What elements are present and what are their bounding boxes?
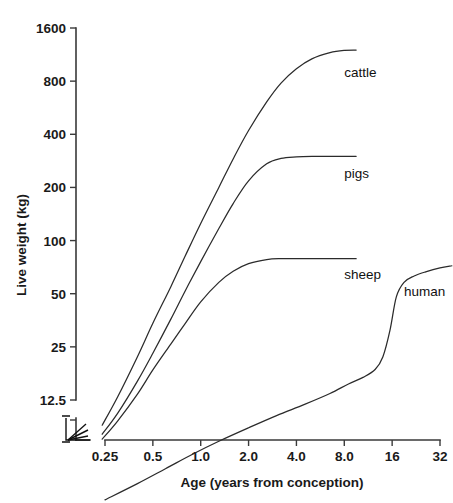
series-curves <box>102 50 452 500</box>
y-axis-ticks <box>70 28 76 420</box>
x-tick-label: 8.0 <box>335 449 354 464</box>
y-tick-label: 50 <box>51 287 66 302</box>
series-label-cattle: cattle <box>344 65 376 80</box>
series-label-pigs: pigs <box>344 166 369 181</box>
series-curve-human <box>105 266 452 500</box>
series-curve-sheep <box>102 259 356 440</box>
growth-curve-chart: 12.525501002004008001600 Live weight (kg… <box>0 0 453 503</box>
series-curve-pigs <box>102 156 356 434</box>
x-tick-label: 2.0 <box>239 449 258 464</box>
x-tick-label: 4.0 <box>287 449 306 464</box>
y-tick-label: 12.5 <box>40 393 67 408</box>
chart-canvas: 12.525501002004008001600 Live weight (kg… <box>0 0 453 503</box>
y-tick-label: 800 <box>43 74 66 89</box>
series-label-sheep: sheep <box>344 267 381 282</box>
x-axis-ticks <box>105 440 440 446</box>
y-axis-title: Live weight (kg) <box>14 194 29 296</box>
series-curve-cattle <box>102 50 356 425</box>
x-tick-label: 1.0 <box>191 449 210 464</box>
y-tick-label: 100 <box>43 234 66 249</box>
x-axis-tick-labels: 0.250.51.02.04.08.01632 <box>92 449 448 464</box>
y-tick-label: 200 <box>43 180 66 195</box>
x-axis-title: Age (years from conception) <box>180 475 363 490</box>
y-tick-label: 25 <box>51 340 67 355</box>
series-labels: cattlepigssheephuman <box>344 65 445 299</box>
y-tick-label: 1600 <box>36 21 66 36</box>
x-tick-label: 0.5 <box>143 449 162 464</box>
x-tick-label: 0.25 <box>92 449 119 464</box>
x-tick-label: 32 <box>432 449 447 464</box>
y-axis: 12.525501002004008001600 Live weight (kg… <box>14 21 76 440</box>
series-label-human: human <box>404 284 445 299</box>
y-tick-label: 400 <box>43 127 66 142</box>
y-axis-tick-labels: 12.525501002004008001600 <box>36 21 67 408</box>
x-axis: 0.250.51.02.04.08.01632 Age (years from … <box>76 440 448 490</box>
x-tick-label: 16 <box>385 449 401 464</box>
